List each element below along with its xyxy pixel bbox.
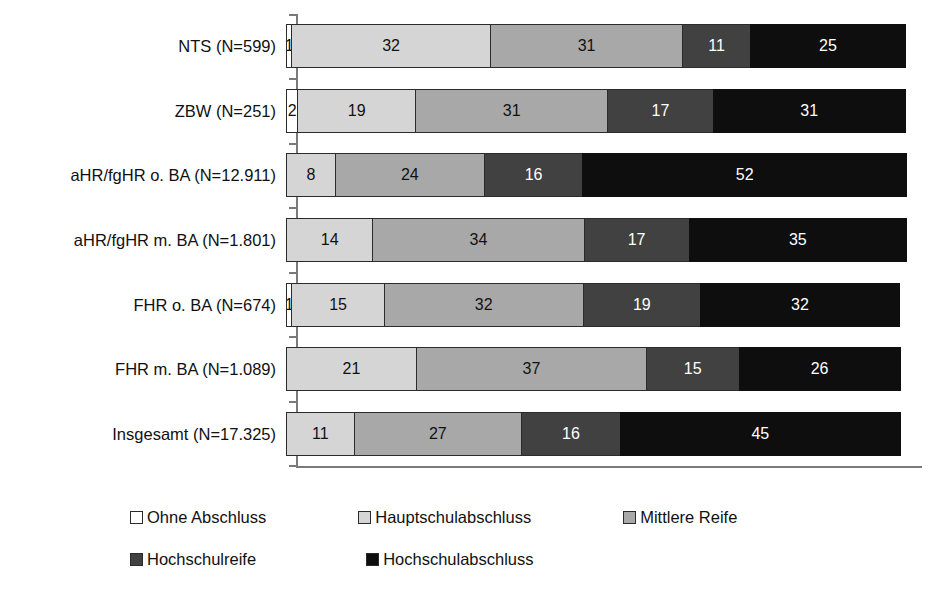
bar-segment: 19 — [583, 283, 702, 327]
bar-segment: 14 — [286, 218, 373, 262]
bar-value-label: 11 — [312, 426, 329, 442]
legend-item-label: Hochschulabschluss — [383, 550, 533, 569]
bar-row: FHR m. BA (N=1.089)21371526 — [0, 337, 948, 402]
plot-area: NTS (N=599)132311125ZBW (N=251)219311731… — [0, 14, 948, 480]
bar-segment: 32 — [291, 24, 491, 68]
bar-segment: 27 — [354, 412, 522, 456]
category-label: ZBW (N=251) — [0, 102, 284, 120]
stacked-bar: 219311731 — [286, 89, 910, 133]
bar-segment: 16 — [484, 153, 584, 197]
bar-segment: 19 — [297, 89, 416, 133]
bar-value-label: 2 — [288, 103, 297, 119]
bar-segment: 11 — [682, 24, 751, 68]
bar-value-label: 45 — [751, 426, 769, 442]
bar-value-label: 31 — [800, 103, 818, 119]
stacked-bar: 14341735 — [286, 218, 910, 262]
bar-value-label: 19 — [633, 297, 651, 313]
bar-row: aHR/fgHR m. BA (N=1.801)14341735 — [0, 208, 948, 273]
bar-value-label: 19 — [348, 103, 366, 119]
bar-row: aHR/fgHR o. BA (N=12.911)8241652 — [0, 143, 948, 208]
bar-value-label: 16 — [525, 167, 543, 183]
legend-swatch-icon — [130, 511, 143, 524]
stacked-bar: 21371526 — [286, 347, 910, 391]
bar-value-label: 31 — [578, 38, 596, 54]
bar-value-label: 37 — [523, 361, 541, 377]
legend-swatch-icon — [130, 553, 143, 566]
bar-segment: 31 — [490, 24, 683, 68]
bar-value-label: 21 — [343, 361, 361, 377]
bar-value-label: 17 — [652, 103, 670, 119]
bar-segment: 15 — [291, 283, 385, 327]
legend-row-2: Hochschulreife Hochschulabschluss — [0, 538, 948, 580]
bar-segment: 25 — [750, 24, 906, 68]
legend-swatch-icon — [358, 511, 371, 524]
legend-item-hauptschulabschluss[interactable]: Hauptschulabschluss — [358, 508, 531, 527]
stacked-bar: 115321932 — [286, 283, 910, 327]
bar-segment: 31 — [713, 89, 906, 133]
bar-segment: 17 — [584, 218, 690, 262]
bar-value-label: 17 — [628, 232, 646, 248]
bar-value-label: 32 — [791, 297, 809, 313]
category-label: FHR m. BA (N=1.089) — [0, 360, 284, 378]
category-label: aHR/fgHR m. BA (N=1.801) — [0, 231, 284, 249]
bar-segment: 32 — [384, 283, 584, 327]
bar-segment: 45 — [620, 412, 901, 456]
bar-row: NTS (N=599)132311125 — [0, 14, 948, 79]
bar-value-label: 35 — [789, 232, 807, 248]
bar-value-label: 14 — [321, 232, 339, 248]
bar-row: Insgesamt (N=17.325)11271645 — [0, 401, 948, 466]
bar-row: FHR o. BA (N=674)115321932 — [0, 272, 948, 337]
bar-value-label: 32 — [475, 297, 493, 313]
legend-item-label: Hauptschulabschluss — [375, 508, 531, 527]
bar-segment: 52 — [582, 153, 906, 197]
bar-segment: 24 — [335, 153, 485, 197]
bar-value-label: 15 — [329, 297, 347, 313]
bar-segment: 34 — [372, 218, 584, 262]
bar-segment: 8 — [286, 153, 336, 197]
legend-item-label: Ohne Abschluss — [147, 508, 266, 527]
bar-value-label: 26 — [811, 361, 829, 377]
legend-item-mittlere-reife[interactable]: Mittlere Reife — [623, 508, 737, 527]
bar-row: ZBW (N=251)219311731 — [0, 79, 948, 144]
category-label: NTS (N=599) — [0, 37, 284, 55]
legend-item-ohne-abschluss[interactable]: Ohne Abschluss — [130, 508, 266, 527]
category-label: aHR/fgHR o. BA (N=12.911) — [0, 166, 284, 184]
bar-value-label: 34 — [470, 232, 488, 248]
stacked-bar: 11271645 — [286, 412, 910, 456]
category-label: FHR o. BA (N=674) — [0, 296, 284, 314]
chart-legend: Ohne Abschluss Hauptschulabschluss Mittl… — [0, 496, 948, 580]
legend-item-hochschulreife[interactable]: Hochschulreife — [130, 550, 256, 569]
bar-segment: 32 — [700, 283, 900, 327]
bar-value-label: 16 — [562, 426, 580, 442]
bar-segment: 17 — [607, 89, 713, 133]
bar-segment: 11 — [286, 412, 355, 456]
bar-segment: 31 — [415, 89, 608, 133]
category-label: Insgesamt (N=17.325) — [0, 425, 284, 443]
bar-value-label: 24 — [401, 167, 419, 183]
bar-value-label: 52 — [736, 167, 754, 183]
bar-value-label: 31 — [503, 103, 521, 119]
bar-segment: 35 — [689, 218, 907, 262]
bar-value-label: 8 — [307, 167, 316, 183]
legend-item-label: Mittlere Reife — [640, 508, 737, 527]
value-axis-line — [296, 466, 922, 468]
bar-value-label: 27 — [429, 426, 447, 442]
bar-value-label: 32 — [382, 38, 400, 54]
bar-segment: 16 — [521, 412, 621, 456]
stacked-bar: 8241652 — [286, 153, 910, 197]
legend-row-1: Ohne Abschluss Hauptschulabschluss Mittl… — [0, 496, 948, 538]
bar-segment: 26 — [739, 347, 901, 391]
bar-segment: 15 — [646, 347, 740, 391]
bar-value-label: 25 — [819, 38, 837, 54]
bar-segment: 21 — [286, 347, 417, 391]
legend-item-label: Hochschulreife — [147, 550, 256, 569]
legend-item-hochschulabschluss[interactable]: Hochschulabschluss — [366, 550, 533, 569]
bar-value-label: 11 — [708, 38, 725, 54]
legend-swatch-icon — [366, 553, 379, 566]
bar-value-label: 15 — [684, 361, 702, 377]
stacked-bar: 132311125 — [286, 24, 910, 68]
bar-rows: NTS (N=599)132311125ZBW (N=251)219311731… — [0, 14, 948, 466]
legend-swatch-icon — [623, 511, 636, 524]
stacked-bar-chart: NTS (N=599)132311125ZBW (N=251)219311731… — [0, 0, 948, 593]
bar-segment: 37 — [416, 347, 647, 391]
